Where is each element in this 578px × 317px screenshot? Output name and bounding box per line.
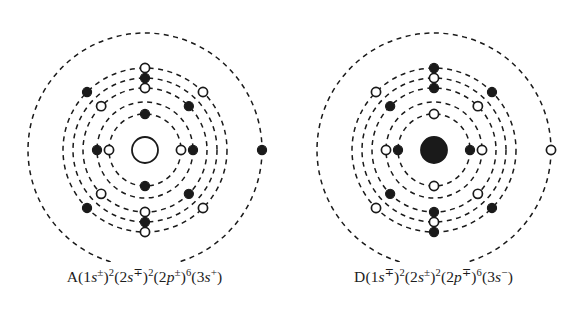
caption-element-symbol: D — [354, 268, 365, 285]
atom-diagram-d — [289, 0, 578, 262]
electrons-group — [371, 63, 555, 236]
electron-filled-ring1 — [140, 181, 149, 190]
electron-filled-ring1 — [465, 145, 474, 154]
electron-open-ring3 — [97, 102, 106, 111]
caption-term-2p: (2p±)6 — [154, 268, 192, 285]
electron-open-ring5 — [198, 203, 207, 212]
electron-open-ring3 — [140, 83, 149, 92]
electron-filled-ring3 — [429, 207, 438, 216]
nucleus-open — [132, 137, 158, 163]
caption-term-1s: (1s±)2 — [78, 268, 114, 285]
caption-term-3s: (3s+) — [191, 268, 222, 285]
electron-open-ring4 — [429, 73, 438, 82]
electron-filled-ring3 — [386, 102, 395, 111]
caption-term-1s: (1s∓)2 — [365, 268, 404, 285]
electron-open-ring5 — [140, 227, 149, 236]
caption-occupancy: 2 — [399, 267, 404, 278]
electron-open-ring2 — [477, 145, 486, 154]
electron-open-ring3 — [473, 189, 482, 198]
electron-filled-ring4 — [140, 217, 149, 226]
caption-sign: ∓ — [462, 266, 471, 278]
nucleus-filled — [421, 137, 447, 163]
electron-open-ring2 — [381, 145, 390, 154]
electron-filled-ring1 — [140, 109, 149, 118]
electron-filled-ring5 — [82, 203, 91, 212]
caption-term-2p: (2p∓)6 — [441, 268, 482, 285]
caption-sign: − — [501, 266, 507, 278]
electron-filled-ring2 — [92, 145, 101, 154]
electron-open-ring3 — [97, 189, 106, 198]
electron-open-ring5 — [198, 87, 207, 96]
electron-filled-ring5 — [82, 87, 91, 96]
electron-filled-ring5 — [429, 63, 438, 72]
caption-sign: ± — [174, 266, 180, 278]
caption-orbital-letter: p — [454, 268, 462, 285]
electron-open-ring1 — [429, 181, 438, 190]
electron-open-ring1 — [429, 109, 438, 118]
caption-term-2s: (2s∓)2 — [114, 268, 153, 285]
caption-a: A(1s±)2(2s∓)2(2p±)6(3s+) — [0, 262, 289, 286]
caption-sign: ± — [424, 266, 430, 278]
caption-occupancy: 2 — [148, 267, 153, 278]
electron-filled-ring3 — [386, 189, 395, 198]
caption-row: A(1s±)2(2s∓)2(2p±)6(3s+) D(1s∓)2(2s±)2(2… — [0, 262, 578, 317]
caption-sign: ± — [97, 266, 103, 278]
caption-element-symbol: A — [67, 268, 78, 285]
atom-svg-d — [289, 0, 578, 262]
electron-open-ring1 — [104, 145, 113, 154]
electron-open-ring5 — [371, 203, 380, 212]
electron-open-ring3 — [140, 207, 149, 216]
caption-d: D(1s∓)2(2s±)2(2p∓)6(3s−) — [289, 262, 578, 286]
electron-filled-ring4 — [140, 73, 149, 82]
electron-filled-ring2 — [188, 145, 197, 154]
electron-filled-ring5 — [429, 227, 438, 236]
electron-filled-ring1 — [393, 145, 402, 154]
electron-open-ring3 — [473, 102, 482, 111]
atomic-configuration-figure: A(1s±)2(2s∓)2(2p±)6(3s+) D(1s∓)2(2s±)2(2… — [0, 0, 578, 317]
electron-open-ring4 — [429, 217, 438, 226]
electron-open-ring5 — [140, 63, 149, 72]
electron-filled-ring6 — [257, 145, 266, 154]
electrons-group — [82, 63, 266, 236]
electron-filled-ring3 — [184, 102, 193, 111]
caption-term-3s: (3s−) — [482, 268, 513, 285]
electron-filled-ring3 — [429, 83, 438, 92]
electron-open-ring5 — [371, 87, 380, 96]
electron-filled-ring3 — [184, 189, 193, 198]
caption-sign: ∓ — [385, 266, 394, 278]
electron-open-ring1 — [176, 145, 185, 154]
electron-filled-ring5 — [487, 203, 496, 212]
caption-term-2s: (2s±)2 — [405, 268, 441, 285]
caption-sign: + — [211, 266, 217, 278]
atom-svg-a — [0, 0, 289, 262]
electron-filled-ring5 — [487, 87, 496, 96]
electron-open-ring6 — [546, 145, 555, 154]
caption-sign: ∓ — [133, 266, 142, 278]
atom-diagram-a — [0, 0, 289, 262]
